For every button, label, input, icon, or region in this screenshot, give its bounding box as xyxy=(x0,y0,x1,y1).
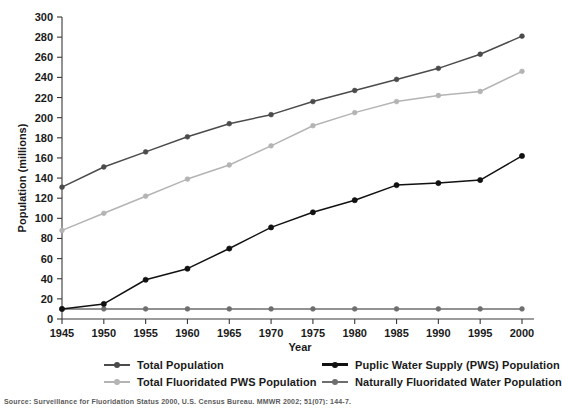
data-point xyxy=(520,34,525,39)
legend-label: Total Population xyxy=(137,359,224,371)
y-tick-label: 140 xyxy=(35,172,53,184)
x-tick-label: 1960 xyxy=(175,327,199,339)
x-tick-label: 1995 xyxy=(468,327,492,339)
series-line xyxy=(62,36,522,187)
y-tick-label: 300 xyxy=(35,11,53,23)
legend-marker-icon xyxy=(322,360,348,370)
y-tick-label: 220 xyxy=(35,92,53,104)
x-axis-ticks: 1945195019551960196519701975198019851990… xyxy=(50,319,534,339)
series-naturally-fluoridated-water-population xyxy=(60,307,525,312)
y-tick-label: 120 xyxy=(35,192,53,204)
series-total-population xyxy=(60,34,525,190)
x-tick-label: 1980 xyxy=(342,327,366,339)
x-tick-label: 1970 xyxy=(259,327,283,339)
data-point xyxy=(310,210,315,215)
y-tick-label: 280 xyxy=(35,31,53,43)
data-point xyxy=(269,143,274,148)
y-tick-label: 40 xyxy=(41,273,53,285)
y-tick-label: 160 xyxy=(35,152,53,164)
legend-label: Total Fluoridated PWS Population xyxy=(137,376,317,388)
data-point xyxy=(185,266,190,271)
legend-item-total-population[interactable]: Total Population xyxy=(104,356,317,373)
data-point xyxy=(143,194,148,199)
data-point xyxy=(352,110,357,115)
x-tick-label: 1990 xyxy=(426,327,450,339)
data-point xyxy=(59,306,64,311)
data-point xyxy=(352,198,357,203)
data-point xyxy=(436,307,441,312)
data-point xyxy=(394,307,399,312)
data-point xyxy=(227,121,232,126)
legend-marker-icon xyxy=(322,377,348,387)
y-tick-label: 200 xyxy=(35,112,53,124)
y-tick-label: 180 xyxy=(35,132,53,144)
x-tick-label: 1955 xyxy=(133,327,157,339)
y-tick-label: 260 xyxy=(35,51,53,63)
data-point xyxy=(60,185,65,190)
series-line xyxy=(62,71,522,230)
series-line xyxy=(62,156,522,309)
data-point xyxy=(394,183,399,188)
data-point xyxy=(268,225,273,230)
legend-marker-icon xyxy=(104,360,130,370)
y-tick-label: 0 xyxy=(47,313,53,325)
data-point xyxy=(227,246,232,251)
x-tick-label: 1965 xyxy=(217,327,241,339)
data-point xyxy=(394,99,399,104)
data-point xyxy=(478,307,483,312)
legend-label: Naturally Fluoridated Water Population xyxy=(355,376,562,388)
legend-item-naturally-fluoridated-water-population[interactable]: Naturally Fluoridated Water Population xyxy=(322,373,562,390)
data-point xyxy=(101,301,106,306)
data-point xyxy=(143,277,148,282)
data-point xyxy=(185,134,190,139)
data-point xyxy=(143,307,148,312)
data-point xyxy=(101,307,106,312)
data-point xyxy=(519,153,524,158)
data-point xyxy=(478,52,483,57)
source-note: Source: Surveillance for Fluoridation St… xyxy=(4,398,556,405)
data-point xyxy=(311,123,316,128)
data-point xyxy=(101,165,106,170)
legend-item-total-fluoridated-pws-population[interactable]: Total Fluoridated PWS Population xyxy=(104,373,317,390)
y-tick-label: 100 xyxy=(35,212,53,224)
data-point xyxy=(311,99,316,104)
x-tick-label: 1985 xyxy=(384,327,408,339)
y-tick-label: 60 xyxy=(41,253,53,265)
y-axis-ticks: 0204060801001201401601802002202402602803… xyxy=(35,11,62,325)
y-tick-label: 20 xyxy=(41,293,53,305)
series-total-fluoridated-pws-population xyxy=(60,69,525,233)
data-point xyxy=(436,181,441,186)
data-point xyxy=(269,112,274,117)
x-axis-title: Year xyxy=(288,341,312,353)
data-point xyxy=(436,66,441,71)
data-point xyxy=(520,307,525,312)
y-tick-label: 240 xyxy=(35,71,53,83)
x-tick-label: 1950 xyxy=(92,327,116,339)
legend-marker-icon xyxy=(104,377,130,387)
data-point xyxy=(101,211,106,216)
data-point xyxy=(352,88,357,93)
x-tick-label: 1975 xyxy=(301,327,325,339)
data-point xyxy=(185,307,190,312)
data-point xyxy=(143,149,148,154)
line-chart-plot: 0204060801001201401601802002202402602803… xyxy=(0,0,560,356)
legend-item-public-water-supply-population[interactable]: Puplic Water Supply (PWS) Population xyxy=(322,356,562,373)
data-point xyxy=(520,69,525,74)
legend-column-right: Puplic Water Supply (PWS) Population Nat… xyxy=(322,356,562,390)
data-point xyxy=(352,307,357,312)
series-puplic-water-supply-pws-population xyxy=(59,153,524,311)
data-point xyxy=(227,163,232,168)
data-point xyxy=(227,307,232,312)
data-series-group xyxy=(59,34,524,312)
data-point xyxy=(436,93,441,98)
x-tick-label: 1945 xyxy=(50,327,74,339)
y-tick-label: 80 xyxy=(41,232,53,244)
data-point xyxy=(60,228,65,233)
legend-label: Puplic Water Supply (PWS) Population xyxy=(355,359,560,371)
x-tick-label: 2000 xyxy=(510,327,534,339)
data-point xyxy=(394,77,399,82)
data-point xyxy=(478,177,483,182)
chart-legend: Total Population Total Fluoridated PWS P… xyxy=(0,356,560,392)
data-point xyxy=(311,307,316,312)
